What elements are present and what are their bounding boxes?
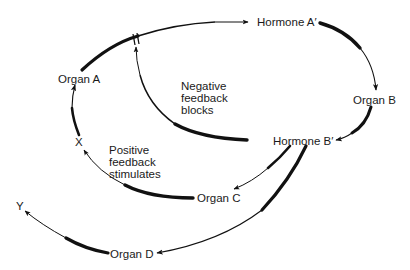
node-x: X: [75, 136, 83, 148]
node-organ-b: Organ B: [353, 94, 396, 106]
annotation-positive-feedback: Positive feedback stimulates: [109, 144, 161, 180]
annotation-line: Positive: [109, 144, 161, 156]
node-y: Y: [16, 200, 24, 212]
arrow-hormone-a-to-organ-b: [320, 23, 376, 90]
arrow-organ-b-to-hormone-b: [336, 107, 371, 140]
annotation-line: Negative: [181, 80, 228, 92]
annotation-line: stimulates: [109, 168, 161, 180]
arrow-x-to-organ-a: [72, 85, 79, 135]
node-organ-c: Organ C: [197, 192, 240, 204]
annotation-negative-feedback: Negative feedback blocks: [181, 80, 228, 116]
node-hormone-a: Hormone A′: [257, 16, 317, 28]
feedback-diagram: [0, 0, 410, 270]
node-organ-a: Organ A: [58, 73, 100, 85]
node-organ-d: Organ D: [110, 248, 153, 260]
arrow-organ-a-to-hormone-a: [82, 22, 248, 70]
annotation-line: feedback: [109, 156, 161, 168]
node-hormone-b: Hormone B′: [273, 135, 333, 147]
arrow-hormone-b-to-organ-c: [234, 146, 290, 189]
annotation-line: feedback: [181, 92, 228, 104]
annotation-line: blocks: [181, 104, 228, 116]
arrow-organ-d-to-y: [25, 211, 108, 253]
